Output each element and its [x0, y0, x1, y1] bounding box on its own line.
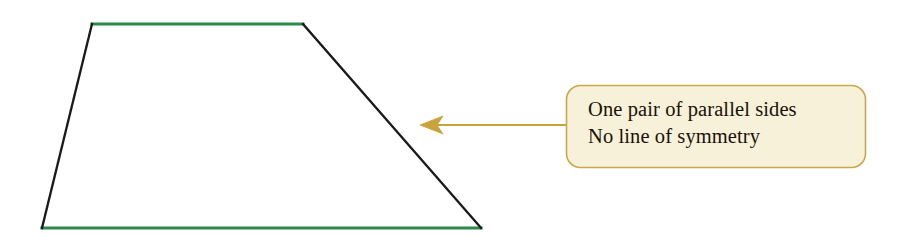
callout-arrow	[420, 116, 566, 134]
callout-box	[567, 86, 866, 168]
trapezium-right-leg	[303, 24, 481, 228]
trapezium-diagram: One pair of parallel sides No line of sy…	[0, 0, 902, 237]
trapezium-left-leg	[42, 24, 92, 228]
callout-bubble	[567, 86, 866, 168]
diagram-canvas	[0, 0, 902, 237]
trapezium-shape	[42, 24, 481, 228]
